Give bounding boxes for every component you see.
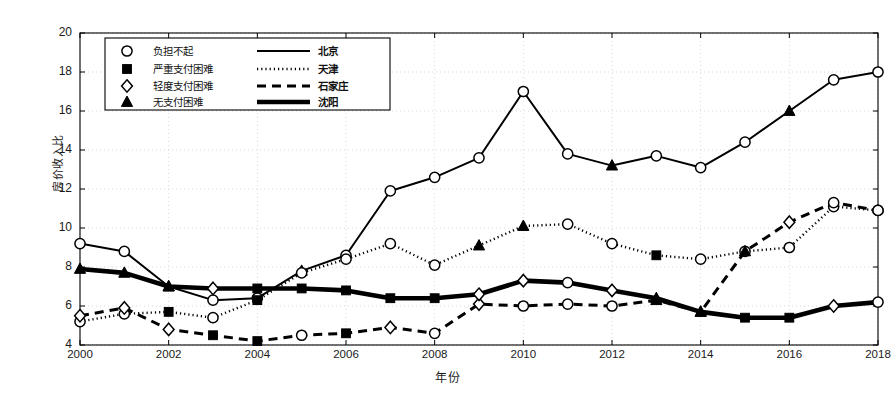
data-point-severe-difficulty	[297, 284, 306, 293]
data-point-affordable-not	[385, 239, 395, 249]
data-point-severe-difficulty	[652, 251, 661, 260]
legend-city-label: 北京	[318, 45, 339, 57]
data-point-affordable-not	[873, 67, 883, 77]
data-point-affordable-not	[119, 246, 129, 256]
data-point-no-difficulty	[518, 220, 529, 230]
data-point-circle-open	[122, 46, 132, 56]
data-point-severe-difficulty	[785, 313, 794, 322]
legend-city-label: 天津	[318, 63, 339, 75]
data-point-severe-difficulty	[164, 307, 173, 316]
data-point-affordable-not	[208, 295, 218, 305]
data-point-mild-difficulty	[607, 284, 618, 296]
data-point-affordable-not	[873, 297, 883, 307]
data-point-affordable-not	[341, 254, 351, 264]
data-point-severe-difficulty	[342, 286, 351, 295]
data-point-mild-difficulty	[474, 288, 485, 300]
data-point-affordable-not	[297, 330, 307, 340]
legend-city-label: 沈阳	[318, 96, 338, 108]
data-point-affordable-not	[430, 328, 440, 338]
legend-marker-label: 严重支付困难	[153, 63, 214, 75]
plot-area: 负担不起严重支付困难轻度支付困难无支付困难北京天津石家庄沈阳	[0, 0, 896, 398]
data-point-no-difficulty	[784, 105, 795, 115]
data-point-severe-difficulty	[209, 331, 218, 340]
data-point-affordable-not	[563, 299, 573, 309]
data-point-mild-difficulty	[385, 321, 396, 333]
data-point-severe-difficulty	[741, 313, 750, 322]
data-point-affordable-not	[696, 254, 706, 264]
chart-container: 房价收入比 年份 468101214161820 200020022004200…	[0, 0, 896, 398]
data-point-severe-difficulty	[253, 296, 262, 305]
legend-marker-label: 无支付困难	[153, 96, 204, 108]
data-point-mild-difficulty	[784, 216, 795, 228]
data-point-affordable-not	[740, 137, 750, 147]
data-point-severe-difficulty	[386, 294, 395, 303]
data-point-mild-difficulty	[828, 300, 839, 312]
data-point-affordable-not	[607, 301, 617, 311]
series-3	[74, 263, 883, 322]
data-point-affordable-not	[563, 149, 573, 159]
data-point-affordable-not	[75, 239, 85, 249]
data-point-mild-difficulty	[518, 274, 529, 286]
data-point-affordable-not	[563, 219, 573, 229]
data-point-affordable-not	[696, 162, 706, 172]
data-point-affordable-not	[430, 172, 440, 182]
data-point-affordable-not	[208, 313, 218, 323]
data-point-square-filled	[123, 65, 132, 74]
data-point-affordable-not	[474, 153, 484, 163]
data-point-mild-difficulty	[208, 282, 219, 294]
data-point-affordable-not	[518, 86, 528, 96]
data-point-affordable-not	[829, 75, 839, 85]
series-2	[75, 198, 884, 346]
data-point-affordable-not	[607, 239, 617, 249]
data-point-affordable-not	[829, 198, 839, 208]
data-point-affordable-not	[430, 260, 440, 270]
data-point-affordable-not	[873, 205, 883, 215]
chart-legend: 负担不起严重支付困难轻度支付困难无支付困难北京天津石家庄沈阳	[105, 38, 390, 110]
legend-marker-label: 轻度支付困难	[153, 80, 214, 92]
data-point-severe-difficulty	[342, 329, 351, 338]
data-point-affordable-not	[518, 301, 528, 311]
data-point-severe-difficulty	[430, 294, 439, 303]
data-point-severe-difficulty	[253, 337, 262, 346]
data-point-affordable-not	[651, 151, 661, 161]
data-point-affordable-not	[563, 278, 573, 288]
data-point-severe-difficulty	[253, 284, 262, 293]
data-point-mild-difficulty	[163, 323, 174, 335]
data-point-affordable-not	[784, 242, 794, 252]
data-point-affordable-not	[385, 186, 395, 196]
data-point-affordable-not	[297, 268, 307, 278]
legend-marker-label: 负担不起	[153, 45, 194, 57]
legend-city-label: 石家庄	[317, 80, 349, 92]
